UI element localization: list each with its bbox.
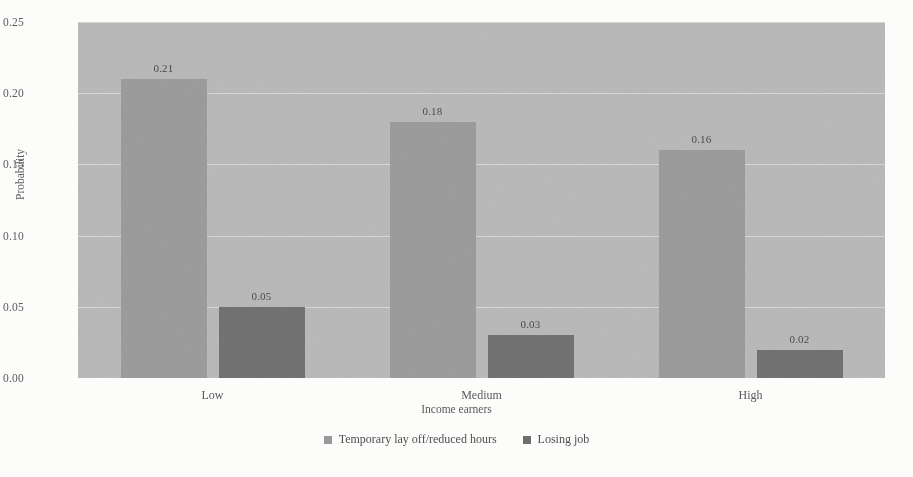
bar-value-label: 0.05 (251, 290, 271, 302)
bar (219, 307, 305, 378)
x-axis-tick-label: High (739, 388, 763, 403)
bar-value-label: 0.16 (691, 133, 711, 145)
x-axis-title: Income earners (0, 403, 913, 415)
chart-legend: Temporary lay off/reduced hoursLosing jo… (0, 432, 913, 447)
gridline (78, 22, 885, 23)
bar-value-label: 0.03 (520, 318, 540, 330)
bar (757, 350, 843, 378)
y-axis-tick-label: 0.10 (3, 230, 24, 242)
y-axis-tick-label: 0.20 (3, 87, 24, 99)
bar-value-label: 0.21 (153, 62, 173, 74)
bar-value-label: 0.18 (422, 105, 442, 117)
bar (488, 335, 574, 378)
y-axis-tick-label: 0.00 (3, 372, 24, 384)
plot-area (78, 22, 885, 378)
x-axis-tick-label: Low (202, 388, 224, 403)
y-axis-tick-label: 0.05 (3, 301, 24, 313)
x-axis-tick-label: Medium (461, 388, 502, 403)
bar (659, 150, 745, 378)
legend-label: Temporary lay off/reduced hours (339, 432, 497, 447)
legend-item[interactable]: Losing job (523, 432, 590, 447)
bar (121, 79, 207, 378)
bar-chart: Probability 0.000.050.100.150.200.25 0.2… (0, 0, 913, 477)
legend-swatch-icon (324, 436, 332, 444)
y-axis-title: Probability (14, 149, 26, 200)
y-axis-tick-label: 0.15 (3, 158, 24, 170)
bar (390, 122, 476, 378)
y-axis-tick-label: 0.25 (3, 16, 24, 28)
legend-label: Losing job (538, 432, 590, 447)
bar-value-label: 0.02 (789, 333, 809, 345)
legend-item[interactable]: Temporary lay off/reduced hours (324, 432, 497, 447)
legend-swatch-icon (523, 436, 531, 444)
